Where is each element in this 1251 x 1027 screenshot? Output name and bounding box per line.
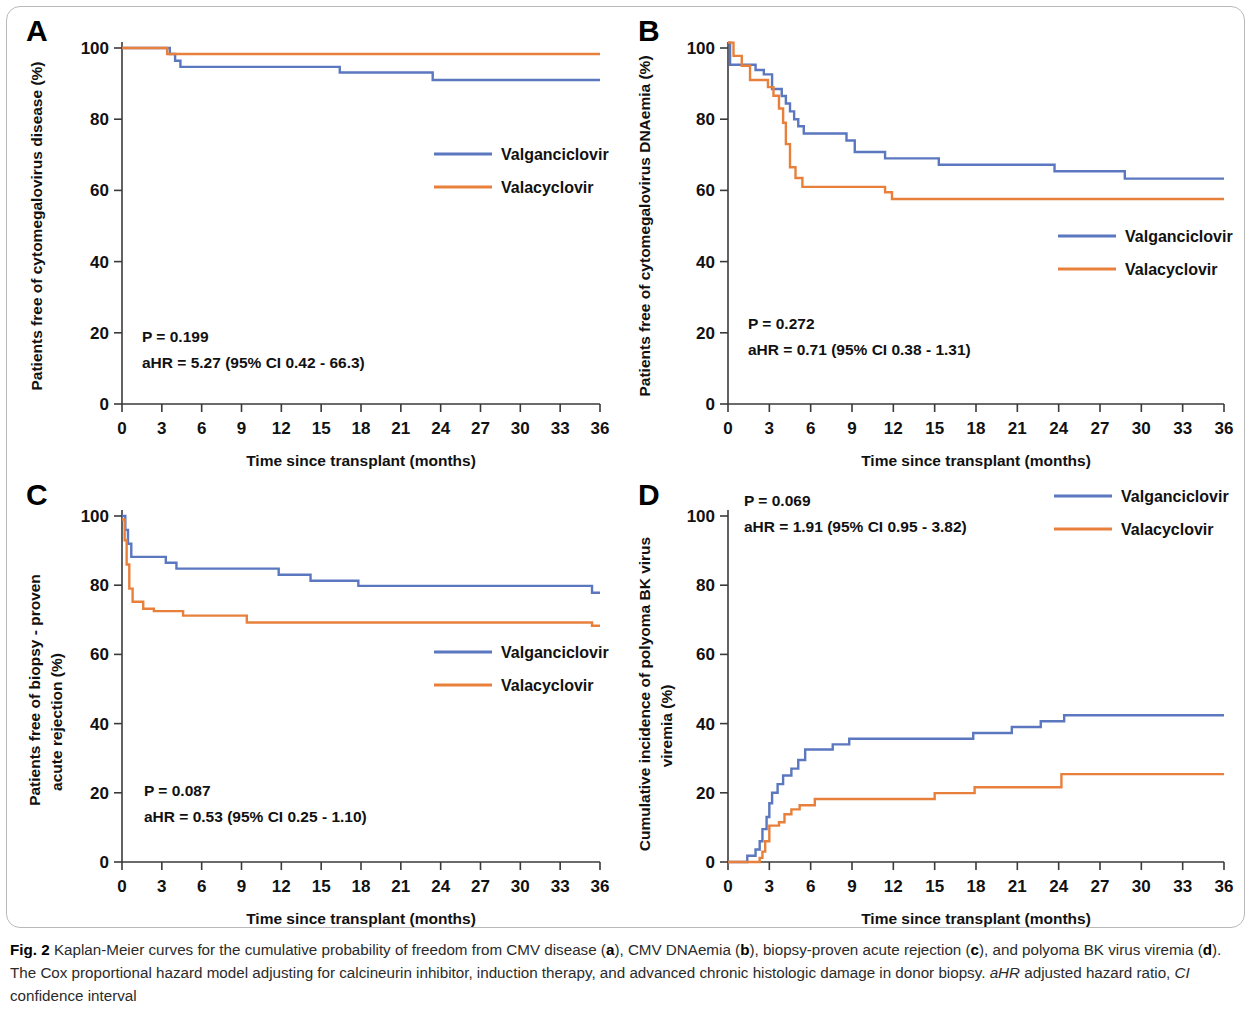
y-axis-title-line-1: Cumulative incidence of polyoma BK virus	[636, 537, 653, 851]
ahr-annotation: aHR = 5.27 (95% CI 0.42 - 66.3)	[142, 354, 365, 371]
figure-label: Fig. 2	[10, 941, 50, 958]
x-tick-label: 6	[806, 877, 815, 896]
x-tick-label: 21	[1008, 877, 1027, 896]
caption-text-2: ), CMV DNAemia (	[614, 941, 740, 958]
caption-def-ci: confidence interval	[10, 987, 137, 1004]
series-curve-valacyclovir	[728, 43, 1224, 199]
x-tick-label: 3	[157, 877, 166, 896]
x-tick-label: 0	[117, 877, 126, 896]
x-tick-label: 12	[884, 419, 903, 438]
y-tick-label: 0	[100, 853, 109, 872]
series-curve-valganciclovir	[728, 43, 1224, 179]
x-tick-label: 33	[551, 877, 570, 896]
x-tick-label: 6	[197, 419, 206, 438]
x-tick-label: 18	[352, 877, 371, 896]
y-axis-title-line-2: acute rejection (%)	[48, 653, 65, 791]
panel-b: B 0204060801000369121518212427303336Time…	[624, 4, 1248, 470]
x-tick-label: 9	[847, 419, 856, 438]
x-tick-label: 33	[1173, 877, 1192, 896]
p-value-annotation: P = 0.199	[142, 328, 209, 345]
x-tick-label: 0	[117, 419, 126, 438]
y-tick-label: 20	[696, 784, 715, 803]
y-tick-label: 40	[696, 715, 715, 734]
x-tick-label: 3	[765, 419, 774, 438]
series-curve-valacyclovir	[122, 48, 600, 54]
x-tick-label: 33	[551, 419, 570, 438]
x-tick-label: 18	[967, 419, 986, 438]
y-axis-title-line-1: Patients free of biopsy - proven	[26, 574, 43, 806]
y-tick-label: 100	[687, 507, 715, 526]
y-tick-label: 40	[90, 715, 109, 734]
x-tick-label: 24	[1049, 877, 1068, 896]
y-tick-label: 80	[90, 576, 109, 595]
x-tick-label: 18	[352, 419, 371, 438]
y-tick-label: 60	[696, 181, 715, 200]
x-tick-label: 0	[723, 419, 732, 438]
x-tick-label: 36	[591, 419, 610, 438]
legend-label-valacyclovir: Valacyclovir	[501, 179, 594, 196]
x-tick-label: 30	[511, 419, 530, 438]
legend-label-valacyclovir: Valacyclovir	[1121, 521, 1214, 538]
panel-c-plot: 0204060801000369121518212427303336Time s…	[4, 466, 624, 936]
panel-a-plot: 0204060801000369121518212427303336Time s…	[4, 4, 624, 470]
legend-label-valganciclovir: Valganciclovir	[1121, 488, 1229, 505]
y-tick-label: 0	[706, 853, 715, 872]
x-tick-label: 6	[806, 419, 815, 438]
y-tick-label: 20	[696, 324, 715, 343]
panel-grid: A 0204060801000369121518212427303336Time…	[0, 0, 1251, 935]
x-tick-label: 27	[471, 419, 490, 438]
caption-abbr-ahr: aHR	[990, 964, 1020, 981]
legend-label-valacyclovir: Valacyclovir	[1125, 261, 1218, 278]
x-tick-label: 6	[197, 877, 206, 896]
x-tick-label: 27	[1091, 419, 1110, 438]
p-value-annotation: P = 0.272	[748, 315, 815, 332]
figure-caption: Fig. 2 Kaplan-Meier curves for the cumul…	[10, 938, 1242, 1007]
x-tick-label: 0	[723, 877, 732, 896]
y-tick-label: 40	[90, 253, 109, 272]
figure-root: A 0204060801000369121518212427303336Time…	[0, 0, 1251, 1027]
y-tick-label: 80	[90, 110, 109, 129]
x-tick-label: 9	[237, 877, 246, 896]
y-tick-label: 20	[90, 784, 109, 803]
legend-label-valganciclovir: Valganciclovir	[1125, 228, 1233, 245]
y-tick-label: 40	[696, 253, 715, 272]
legend-label-valganciclovir: Valganciclovir	[501, 644, 609, 661]
x-tick-label: 36	[1215, 877, 1234, 896]
x-tick-label: 12	[272, 877, 291, 896]
panel-b-plot: 0204060801000369121518212427303336Time s…	[624, 4, 1248, 470]
panel-d-plot: 0204060801000369121518212427303336Time s…	[624, 466, 1248, 936]
legend-label-valganciclovir: Valganciclovir	[501, 146, 609, 163]
x-tick-label: 9	[847, 877, 856, 896]
ahr-annotation: aHR = 0.53 (95% CI 0.25 - 1.10)	[144, 808, 367, 825]
caption-text-3: ), biopsy-proven acute rejection (	[749, 941, 970, 958]
y-tick-label: 20	[90, 324, 109, 343]
ahr-annotation: aHR = 0.71 (95% CI 0.38 - 1.31)	[748, 341, 971, 358]
panel-c: C 0204060801000369121518212427303336Time…	[4, 466, 624, 936]
y-tick-label: 100	[81, 507, 109, 526]
y-tick-label: 60	[90, 181, 109, 200]
x-tick-label: 9	[237, 419, 246, 438]
x-axis-title: Time since transplant (months)	[246, 910, 476, 927]
x-tick-label: 21	[391, 419, 410, 438]
x-tick-label: 27	[1091, 877, 1110, 896]
x-tick-label: 12	[272, 419, 291, 438]
p-value-annotation: P = 0.087	[144, 782, 211, 799]
panel-a: A 0204060801000369121518212427303336Time…	[4, 4, 624, 470]
series-curve-valganciclovir	[122, 516, 600, 593]
series-curve-valganciclovir	[728, 715, 1224, 862]
y-axis-title: Patients free of cytomegalovirus disease…	[28, 61, 45, 390]
y-tick-label: 60	[90, 645, 109, 664]
y-axis-title-line-2: viremia (%)	[658, 685, 675, 768]
x-tick-label: 15	[925, 419, 944, 438]
caption-ref-b: b	[740, 941, 749, 958]
caption-ref-d: d	[1203, 941, 1212, 958]
x-tick-label: 30	[1132, 419, 1151, 438]
x-tick-label: 12	[884, 877, 903, 896]
x-tick-label: 18	[967, 877, 986, 896]
x-tick-label: 3	[765, 877, 774, 896]
x-axis-title: Time since transplant (months)	[861, 910, 1091, 927]
x-tick-label: 15	[312, 877, 331, 896]
y-tick-label: 60	[696, 645, 715, 664]
y-tick-label: 80	[696, 576, 715, 595]
x-tick-label: 36	[591, 877, 610, 896]
